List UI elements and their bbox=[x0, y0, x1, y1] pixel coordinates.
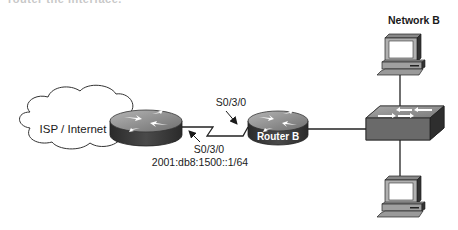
router-b[interactable]: Router B bbox=[248, 110, 308, 145]
router-b-label: Router B bbox=[257, 131, 299, 142]
host-top[interactable] bbox=[377, 34, 425, 75]
router-a[interactable] bbox=[110, 110, 182, 146]
router-a-address-label: 2001:db8:1500::1/64 bbox=[152, 156, 249, 168]
computer-icon bbox=[377, 34, 425, 75]
computer-icon bbox=[377, 176, 425, 217]
switch[interactable] bbox=[366, 106, 444, 140]
network-diagram: ISP / Internet Router B S0/3/0 S0/3/0 20… bbox=[0, 0, 458, 230]
router-b-interface-arrow bbox=[226, 111, 237, 124]
router-b-top bbox=[248, 111, 308, 131]
switch-front bbox=[366, 118, 430, 140]
router-a-interface-arrow bbox=[189, 131, 200, 142]
network-b-label: Network B bbox=[388, 14, 440, 26]
host-bottom[interactable] bbox=[377, 176, 425, 217]
cloud-label: ISP / Internet bbox=[40, 123, 108, 135]
router-a-top bbox=[110, 110, 182, 132]
router-a-interface-label: S0/3/0 bbox=[194, 143, 225, 155]
serial-link bbox=[182, 127, 248, 136]
router-b-interface-label: S0/3/0 bbox=[216, 96, 247, 108]
